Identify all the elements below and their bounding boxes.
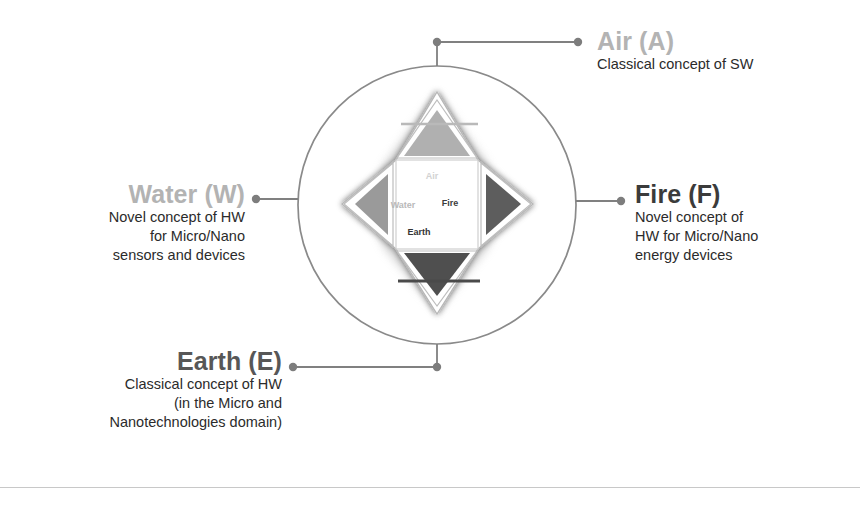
diagram-canvas: Air Water Fire Earth Air (A) Classical c… [0, 0, 860, 511]
air-body: Classical concept of SW [597, 55, 753, 74]
inner-label-air: Air [412, 171, 452, 181]
callout-air: Air (A) Classical concept of SW [597, 28, 753, 74]
water-heading: Water (W) [0, 181, 245, 208]
inner-label-earth: Earth [396, 227, 442, 237]
connector-water [252, 195, 298, 203]
earth-body-line-3: Nanotechnologies domain) [0, 413, 282, 432]
earth-body-line-1: Classical concept of HW [0, 375, 282, 394]
earth-body: Classical concept of HW (in the Micro an… [0, 375, 282, 432]
air-symbol-icon [397, 100, 478, 158]
bottom-divider [0, 487, 860, 488]
fire-body-line-1: Novel concept of [635, 208, 758, 227]
water-body-line-2: for Micro/Nano [0, 227, 245, 246]
air-body-line-1: Classical concept of SW [597, 55, 753, 74]
fire-symbol-icon [481, 163, 531, 246]
callout-earth: Earth (E) Classical concept of HW (in th… [0, 348, 282, 432]
fire-heading: Fire (F) [635, 181, 758, 208]
fire-body-line-2: HW for Micro/Nano [635, 227, 758, 246]
callout-fire: Fire (F) Novel concept of HW for Micro/N… [635, 181, 758, 265]
earth-body-line-2: (in the Micro and [0, 394, 282, 413]
inner-label-water: Water [380, 200, 426, 210]
connector-air [433, 38, 582, 66]
water-body: Novel concept of HW for Micro/Nano senso… [0, 208, 245, 265]
water-body-line-1: Novel concept of HW [0, 208, 245, 227]
earth-heading: Earth (E) [0, 348, 282, 375]
fire-body: Novel concept of HW for Micro/Nano energ… [635, 208, 758, 265]
inner-label-fire: Fire [430, 198, 470, 208]
fire-body-line-3: energy devices [635, 246, 758, 265]
connector-earth [289, 344, 441, 371]
air-heading: Air (A) [597, 28, 753, 55]
connector-fire [576, 197, 625, 205]
water-body-line-3: sensors and devices [0, 246, 245, 265]
callout-water: Water (W) Novel concept of HW for Micro/… [0, 181, 245, 265]
